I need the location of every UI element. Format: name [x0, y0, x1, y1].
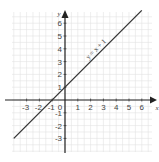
axes: xy [5, 10, 159, 153]
x-tick-label: 1 [76, 103, 81, 112]
x-axis-label: x [154, 104, 159, 112]
x-tick-label: -3 [22, 103, 30, 112]
x-tick-label: 6 [140, 103, 145, 112]
y-tick-label: -1 [55, 109, 63, 118]
annotations: y = x + 1 [84, 37, 108, 61]
y-tick-label: 5 [58, 32, 63, 41]
y-tick-label: 2 [58, 70, 63, 79]
line-equation-label: y = x + 1 [84, 37, 108, 61]
x-axis-arrow-icon [150, 97, 157, 104]
y-axis-arrow-icon [62, 10, 69, 18]
y-tick-label: -3 [55, 134, 63, 143]
y-tick-label: 6 [58, 19, 63, 28]
tick-labels: -3-2-10123456-3-2-1123456 [22, 19, 145, 143]
y-tick-label: 4 [58, 45, 63, 54]
grid-lines [12, 12, 152, 152]
line-graph: xy -3-2-10123456-3-2-1123456 y = x + 1 [0, 0, 159, 162]
x-tick-label: 5 [127, 103, 132, 112]
y-tick-label: -2 [55, 122, 63, 131]
x-tick-label: 4 [114, 103, 119, 112]
x-tick-label: 3 [101, 103, 106, 112]
y-tick-label: 3 [58, 58, 63, 67]
x-tick-label: 2 [88, 103, 93, 112]
